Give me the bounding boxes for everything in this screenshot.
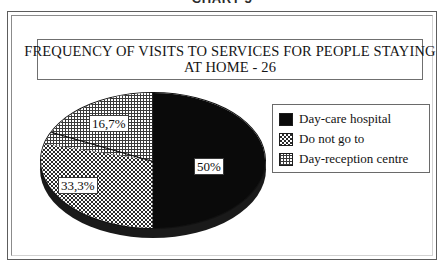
checker-gray-swatch-icon <box>279 133 293 146</box>
pie-value-label-day-care-hospital: 50% <box>194 158 224 175</box>
pie-value-label-day-reception-centre: 16,7% <box>89 115 129 132</box>
legend-label-day-care-hospital: Day-care hospital <box>299 111 391 127</box>
chart-legend: Day-care hospital Do not go to Day-recep… <box>272 104 430 173</box>
dotted-light-swatch-icon <box>279 153 293 166</box>
legend-label-do-not-go-to: Do not go to <box>299 131 364 147</box>
pie-value-label-do-not-go-to: 33,3% <box>58 177 98 194</box>
chart-title-line-1: FREQUENCY OF VISITS TO SERVICES FOR PEOP… <box>24 44 435 60</box>
pie-chart: 50% 33,3% 16,7% <box>40 92 266 244</box>
pie-divider-lower-left <box>153 161 154 229</box>
solid-black-swatch-icon <box>279 113 293 126</box>
legend-item-day-care-hospital[interactable]: Day-care hospital <box>279 109 429 129</box>
pie-top-face <box>40 92 266 229</box>
chart-caption-cropped: CHART 5 <box>0 0 444 9</box>
legend-item-day-reception-centre[interactable]: Day-reception centre <box>279 149 429 169</box>
chart-title-line-2: AT HOME - 26 <box>184 60 276 76</box>
pie-divider-vertical <box>153 92 154 161</box>
chart-caption-text: CHART 5 <box>0 0 444 6</box>
legend-item-do-not-go-to[interactable]: Do not go to <box>279 129 429 149</box>
chart-title-box: FREQUENCY OF VISITS TO SERVICES FOR PEOP… <box>37 39 423 80</box>
legend-label-day-reception-centre: Day-reception centre <box>299 151 408 167</box>
chart-frame: FREQUENCY OF VISITS TO SERVICES FOR PEOP… <box>7 11 437 260</box>
plot-area: 50% 33,3% 16,7% Day-care hospital Do not… <box>22 84 438 265</box>
